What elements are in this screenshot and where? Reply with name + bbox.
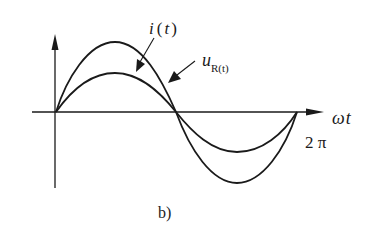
label-omega-t: ωt [332,108,352,128]
pointer-line-i [140,38,154,62]
label-2pi: 2 π [305,133,327,152]
label-uR: uR(t) [202,50,229,75]
pointer-line-uR [177,61,195,75]
x-axis-arrow-icon [306,109,324,116]
figure-caption: b) [158,204,171,222]
y-axis-arrow-icon [52,34,59,50]
sine-waveform-diagram: i(t) uR(t) ωt 2 π b) [0,0,369,234]
label-i-t: i(t) [149,19,177,38]
